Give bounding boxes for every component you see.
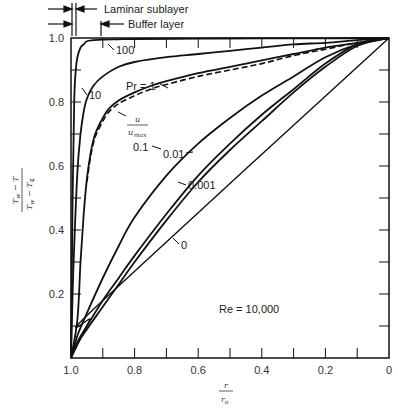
- tick-labels: 1.00.80.60.40.200.20.40.60.81.0: [49, 32, 392, 376]
- x-tick-label: 0.4: [254, 364, 269, 376]
- svg-text:Tw − T: Tw − T: [11, 176, 21, 204]
- x-tick-label: 0: [386, 364, 392, 376]
- y-tick-label: 0.4: [49, 224, 64, 236]
- temperature-profile-chart: Laminar sublayer Buffer layer 1.00.80.60…: [0, 0, 398, 411]
- u-label: u: [135, 115, 140, 124]
- curve-label: 100: [116, 44, 134, 56]
- y-tick-label: 0.6: [49, 160, 64, 172]
- curve-label: Pr = 1: [126, 80, 156, 92]
- buffer-layer-label: Buffer layer: [128, 18, 184, 30]
- curve-label: 0.001: [188, 179, 216, 191]
- curve-label: 0.01: [163, 148, 184, 160]
- x-tick-label: 0.2: [318, 364, 333, 376]
- curve-labels: 10010Pr = 10.10.010.0010: [82, 44, 216, 251]
- x-tick-label: 0.6: [191, 364, 206, 376]
- svg-text:r: r: [224, 381, 229, 390]
- curve-u-umax: [87, 38, 389, 182]
- umax-sub-label: max: [134, 131, 147, 138]
- x-tick-label: 1.0: [63, 364, 78, 376]
- y-axis-label: Tw − T Tw − T℄: [11, 168, 35, 212]
- x-tick-label: 0.8: [127, 364, 142, 376]
- curve-label: 0: [181, 239, 187, 251]
- y-tick-label: 0.8: [49, 96, 64, 108]
- svg-text:Tw − T℄: Tw − T℄: [25, 178, 35, 210]
- svg-text:ro: ro: [221, 395, 229, 405]
- curve-label: 10: [89, 89, 101, 101]
- velocity-profile-label: u u max: [118, 112, 148, 138]
- x-axis-label: r ro: [219, 381, 233, 405]
- reynolds-label: Re = 10,000: [219, 303, 279, 315]
- y-tick-label: 0.2: [49, 288, 64, 300]
- laminar-sublayer-label: Laminar sublayer: [104, 3, 189, 15]
- umax-label: u: [128, 128, 133, 137]
- curve-label: 0.1: [133, 141, 148, 153]
- y-tick-label: 1.0: [49, 32, 64, 44]
